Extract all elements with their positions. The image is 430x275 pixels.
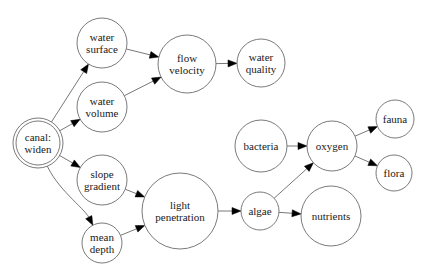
arrowhead-icon bbox=[135, 225, 145, 232]
arrowhead-icon bbox=[71, 119, 81, 126]
node-label: volume bbox=[86, 107, 119, 119]
arrowhead-icon bbox=[292, 210, 301, 217]
node-label: surface bbox=[86, 43, 118, 55]
edge-light-penetration-to-algae bbox=[218, 208, 241, 215]
arrowhead-icon bbox=[228, 60, 237, 67]
arrowhead-icon bbox=[135, 190, 145, 197]
edge-line bbox=[126, 49, 150, 55]
edge-line bbox=[125, 189, 136, 193]
arrowhead-icon bbox=[232, 208, 241, 215]
node-water-quality: waterquality bbox=[237, 39, 285, 87]
node-label: water bbox=[249, 51, 274, 63]
node-label: mean bbox=[90, 231, 114, 243]
arrowhead-icon bbox=[368, 126, 378, 133]
arrowhead-icon bbox=[298, 143, 307, 150]
arrowhead-icon bbox=[152, 77, 162, 84]
node-algae: algae bbox=[241, 192, 279, 230]
arrowhead-icon bbox=[81, 64, 89, 73]
node-flora: flora bbox=[376, 155, 412, 191]
node-label: slope bbox=[90, 168, 113, 180]
edge-algae-to-nutrients bbox=[279, 210, 301, 217]
arrowhead-icon bbox=[149, 51, 159, 58]
node-label: water bbox=[90, 95, 115, 107]
edge-oxygen-to-fauna bbox=[355, 126, 378, 136]
edge-bacteria-to-oxygen bbox=[287, 143, 307, 150]
node-water-surface: watersurface bbox=[77, 18, 127, 68]
node-flow-velocity: flowvelocity bbox=[158, 35, 216, 93]
node-label: flora bbox=[384, 167, 405, 179]
node-label: flow bbox=[177, 52, 197, 64]
node-label: canal: bbox=[25, 131, 51, 143]
edge-line bbox=[279, 212, 292, 213]
edge-canal-widen-to-slope-gradient bbox=[60, 156, 81, 168]
edge-line bbox=[60, 156, 73, 163]
node-label: depth bbox=[90, 243, 115, 255]
node-label: algae bbox=[248, 205, 271, 217]
edge-water-volume-to-flow-velocity bbox=[124, 77, 161, 96]
edge-line bbox=[124, 81, 153, 96]
edge-line bbox=[121, 229, 137, 236]
edge-line bbox=[60, 124, 73, 131]
node-label: nutrients bbox=[312, 210, 351, 222]
node-label: velocity bbox=[169, 64, 205, 76]
edge-slope-gradient-to-light-penetration bbox=[125, 189, 144, 197]
nodes-layer: canal:widenwatersurfacewatervolumeslopeg… bbox=[13, 18, 414, 263]
edge-flow-velocity-to-water-quality bbox=[216, 60, 237, 67]
node-label: bacteria bbox=[244, 140, 279, 152]
node-label: light bbox=[170, 199, 190, 211]
edge-canal-widen-to-water-volume bbox=[60, 119, 80, 130]
edge-line bbox=[274, 169, 307, 198]
arrowhead-icon bbox=[368, 159, 378, 166]
arrowhead-icon bbox=[71, 160, 81, 168]
node-label: widen bbox=[25, 143, 52, 155]
arrowhead-icon bbox=[86, 216, 93, 226]
edge-oxygen-to-flora bbox=[355, 156, 378, 166]
node-label: water bbox=[90, 31, 115, 43]
node-bacteria: bacteria bbox=[235, 120, 287, 172]
edge-algae-to-oxygen bbox=[274, 163, 313, 199]
node-canal-widen: canal:widen bbox=[13, 118, 63, 168]
node-label: fauna bbox=[383, 113, 408, 125]
node-water-volume: watervolume bbox=[77, 82, 127, 132]
edge-line bbox=[355, 156, 369, 162]
node-slope-gradient: slopegradient bbox=[77, 155, 127, 205]
edge-line bbox=[355, 130, 369, 136]
node-label: gradient bbox=[84, 180, 120, 192]
node-nutrients: nutrients bbox=[301, 186, 361, 246]
causal-graph: canal:widenwatersurfacewatervolumeslopeg… bbox=[0, 0, 430, 275]
node-oxygen: oxygen bbox=[307, 121, 357, 171]
node-fauna: fauna bbox=[376, 100, 414, 138]
edge-water-surface-to-flow-velocity bbox=[126, 49, 159, 58]
edge-mean-depth-to-light-penetration bbox=[121, 225, 145, 235]
node-light-penetration: lightpenetration bbox=[142, 173, 218, 249]
node-mean-depth: meandepth bbox=[82, 223, 122, 263]
node-label: quality bbox=[246, 63, 277, 75]
node-label: penetration bbox=[155, 211, 205, 223]
node-label: oxygen bbox=[316, 140, 349, 152]
